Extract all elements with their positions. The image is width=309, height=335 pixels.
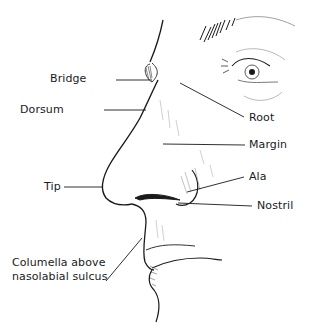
- leader-root: [180, 83, 244, 117]
- forehead-contour: [150, 20, 163, 62]
- label-ala: Ala: [249, 171, 267, 183]
- mouth-line: [152, 258, 222, 268]
- upper-lip-contour: [146, 245, 195, 250]
- eyelashes: [221, 59, 229, 73]
- label-columella-line2: nasolabial sulcus: [12, 271, 108, 283]
- leader-margin: [163, 144, 245, 145]
- lower-eyelid: [238, 80, 278, 83]
- leader-nostril: [178, 203, 252, 206]
- label-dorsum: Dorsum: [20, 104, 64, 116]
- label-columella-line1: Columella above: [12, 257, 106, 269]
- label-margin: Margin: [249, 139, 287, 151]
- leader-columella: [106, 238, 142, 281]
- nostril-opening: [135, 194, 180, 200]
- glabella-shading: [146, 66, 152, 80]
- pupil: [249, 69, 255, 75]
- label-tip: Tip: [44, 181, 61, 193]
- columella-contour: [132, 204, 154, 270]
- nose-anatomy-diagram: Bridge Dorsum Root Margin Ala Tip Nostri…: [0, 0, 309, 335]
- brow-contour: [236, 17, 295, 26]
- face-profile-illustration: [0, 0, 309, 335]
- nose-profile: [103, 80, 158, 205]
- eye-socket-contour: [236, 49, 285, 101]
- cheek-shading: [156, 100, 213, 241]
- label-bridge: Bridge: [50, 73, 86, 85]
- label-nostril: Nostril: [257, 200, 293, 212]
- leader-ala: [187, 177, 244, 192]
- label-root: Root: [249, 112, 274, 124]
- eyebrow: [200, 18, 235, 42]
- lower-lip-contour: [149, 270, 159, 322]
